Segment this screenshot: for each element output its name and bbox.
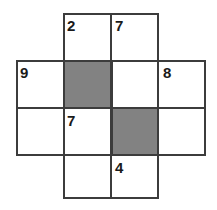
shaded-cell-upper-left[interactable] (63, 60, 111, 108)
dotted-separator-right-horizontal (110, 60, 206, 61)
clue-digit-4: 4 (115, 160, 123, 175)
clue-digit-7-middle: 7 (67, 113, 75, 128)
dotted-separator-left-horizontal (16, 107, 64, 108)
puzzle-figure: 2 7 9 8 7 4 (0, 0, 217, 210)
clue-digit-8: 8 (163, 65, 171, 80)
clue-digit-9: 9 (20, 65, 28, 80)
shaded-cell-lower-right[interactable] (111, 108, 159, 156)
dotted-separator-bottom-vertical (158, 155, 159, 199)
clue-digit-2: 2 (67, 18, 75, 33)
dotted-separator-bottom-horizontal (63, 155, 111, 156)
clue-digit-7-top: 7 (115, 18, 123, 33)
